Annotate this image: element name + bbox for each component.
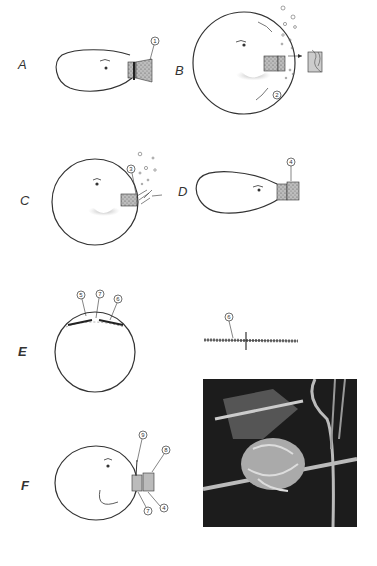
panel-e-drawing: 5 7 6 [55, 290, 135, 392]
panel-e-cord-detail: 6 [204, 313, 298, 350]
panel-d-drawing: 4 [196, 158, 299, 213]
photograph [203, 379, 357, 527]
panel-c-drawing: 3 [52, 152, 162, 245]
photo-content [203, 379, 357, 527]
panel-b-drawing: 2 [193, 6, 322, 114]
panel-a-drawing: 1 [56, 37, 159, 91]
panel-f-drawing: 9 8 7 4 [55, 431, 170, 520]
